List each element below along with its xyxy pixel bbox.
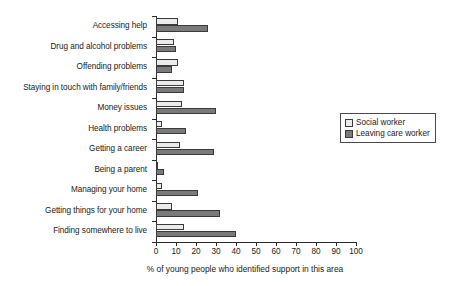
legend-item-leaving-care-worker: Leaving care worker bbox=[345, 128, 430, 139]
x-axis-title: % of young people who identified support… bbox=[0, 264, 454, 274]
bar-group bbox=[156, 160, 356, 181]
x-axis-ticks: 0102030405060708090100 bbox=[156, 242, 366, 266]
y-axis-tick bbox=[152, 221, 156, 222]
bar-social-worker bbox=[156, 121, 162, 127]
bar-pair bbox=[156, 59, 356, 73]
legend-item-social-worker: Social worker bbox=[345, 117, 430, 128]
legend: Social worker Leaving care worker bbox=[340, 113, 436, 143]
bar-social-worker bbox=[156, 18, 178, 24]
x-axis-tick bbox=[336, 242, 337, 246]
bar-social-worker bbox=[156, 183, 162, 189]
bar-pair bbox=[156, 18, 356, 32]
bar-leaving-care-worker bbox=[156, 231, 236, 237]
bar-social-worker bbox=[156, 80, 184, 86]
bar-pair bbox=[156, 183, 356, 197]
bar-pair bbox=[156, 101, 356, 115]
bar-group bbox=[156, 78, 356, 99]
social-worker-swatch-icon bbox=[345, 119, 353, 127]
bar-social-worker bbox=[156, 39, 174, 45]
bar-leaving-care-worker bbox=[156, 190, 198, 196]
x-axis-tick bbox=[316, 242, 317, 246]
bar-pair bbox=[156, 39, 356, 53]
bar-pair bbox=[156, 121, 356, 135]
category-label: Accessing help bbox=[6, 16, 152, 37]
y-axis-tick bbox=[152, 37, 156, 38]
bar-group bbox=[156, 98, 356, 119]
y-axis-tick bbox=[152, 180, 156, 181]
bar-pair bbox=[156, 80, 356, 94]
bar-social-worker bbox=[156, 142, 180, 148]
category-axis-labels: Accessing help Drug and alcohol problems… bbox=[6, 16, 152, 242]
y-axis-tick bbox=[152, 160, 156, 161]
bar-leaving-care-worker bbox=[156, 46, 176, 52]
x-axis-tick bbox=[276, 242, 277, 246]
bar-leaving-care-worker bbox=[156, 25, 208, 31]
bar-rows bbox=[156, 16, 356, 242]
x-axis-tick bbox=[256, 242, 257, 246]
y-axis-tick bbox=[152, 57, 156, 58]
bar-pair bbox=[156, 162, 356, 176]
x-axis-tick bbox=[356, 242, 357, 246]
bar-leaving-care-worker bbox=[156, 108, 216, 114]
y-axis-tick bbox=[152, 139, 156, 140]
category-label: Drug and alcohol problems bbox=[6, 37, 152, 58]
x-axis-tick-label: 100 bbox=[344, 247, 368, 256]
x-axis-tick bbox=[196, 242, 197, 246]
bar-group bbox=[156, 139, 356, 160]
x-axis-tick bbox=[236, 242, 237, 246]
x-axis-tick bbox=[156, 242, 157, 246]
category-label: Money issues bbox=[6, 98, 152, 119]
bar-social-worker bbox=[156, 162, 158, 168]
bar-leaving-care-worker bbox=[156, 149, 214, 155]
bar-leaving-care-worker bbox=[156, 87, 184, 93]
bar-leaving-care-worker bbox=[156, 128, 186, 134]
bar-social-worker bbox=[156, 101, 182, 107]
category-label: Staying in touch with family/friends bbox=[6, 78, 152, 99]
bar-group bbox=[156, 180, 356, 201]
bar-leaving-care-worker bbox=[156, 210, 220, 216]
category-label: Getting a career bbox=[6, 139, 152, 160]
bar-pair bbox=[156, 224, 356, 238]
bar-group bbox=[156, 57, 356, 78]
bar-group bbox=[156, 37, 356, 58]
y-axis-tick bbox=[152, 78, 156, 79]
category-label: Offending problems bbox=[6, 57, 152, 78]
bar-leaving-care-worker bbox=[156, 66, 172, 72]
x-axis-tick bbox=[216, 242, 217, 246]
bar-group bbox=[156, 119, 356, 140]
bar-social-worker bbox=[156, 59, 178, 65]
category-label: Health problems bbox=[6, 119, 152, 140]
x-axis-tick bbox=[176, 242, 177, 246]
legend-label: Social worker bbox=[356, 117, 405, 128]
plot-area bbox=[156, 16, 356, 242]
category-label: Being a parent bbox=[6, 160, 152, 181]
bar-chart: Accessing help Drug and alcohol problems… bbox=[0, 0, 454, 286]
y-axis-tick bbox=[152, 16, 156, 17]
bar-leaving-care-worker bbox=[156, 169, 164, 175]
leaving-care-worker-swatch-icon bbox=[345, 130, 353, 138]
bar-social-worker bbox=[156, 224, 184, 230]
y-axis-tick bbox=[152, 98, 156, 99]
bar-group bbox=[156, 201, 356, 222]
bar-group bbox=[156, 221, 356, 242]
category-label: Getting things for your home bbox=[6, 201, 152, 222]
category-label: Finding somewhere to live bbox=[6, 221, 152, 242]
category-label: Managing your home bbox=[6, 180, 152, 201]
y-axis-tick bbox=[152, 119, 156, 120]
bar-social-worker bbox=[156, 203, 172, 209]
x-axis-tick bbox=[296, 242, 297, 246]
bar-group bbox=[156, 16, 356, 37]
bar-pair bbox=[156, 142, 356, 156]
legend-label: Leaving care worker bbox=[356, 128, 430, 139]
bar-pair bbox=[156, 203, 356, 217]
y-axis-tick bbox=[152, 201, 156, 202]
